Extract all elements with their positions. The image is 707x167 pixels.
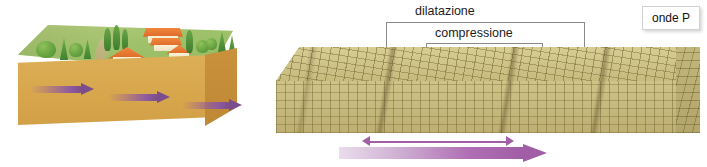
- onde-p-badge: onde P: [642, 6, 700, 30]
- arrow-shaft: [182, 102, 229, 109]
- motion-arrow-icon: [108, 91, 170, 104]
- compressione-bracket: [426, 43, 543, 44]
- compressione-label: compressione: [435, 26, 513, 40]
- arrow-head: [81, 83, 94, 95]
- arrow-shaft: [30, 86, 81, 93]
- grid-block-right-face: [676, 47, 700, 133]
- landscape-block-right-face: [205, 48, 237, 126]
- motion-arrow-icon: [182, 99, 242, 112]
- tree-icon: [186, 30, 193, 53]
- tree-icon: [36, 41, 56, 58]
- arrow-head: [229, 99, 242, 111]
- figure-root: dilatazione compressione onde P: [0, 0, 707, 167]
- arrow-head: [523, 144, 547, 162]
- arrow-shaft: [339, 147, 523, 159]
- arrow-shaft: [108, 94, 157, 101]
- motion-arrow-icon: [30, 83, 94, 96]
- grid-block-figure: dilatazione compressione onde P: [262, 0, 707, 167]
- dilatazione-label: dilatazione: [415, 4, 475, 18]
- landscape-block-figure: [0, 0, 265, 167]
- arrow-head: [157, 91, 170, 103]
- grid-block-front-face: [276, 81, 676, 133]
- arrow-shaft: [368, 141, 508, 143]
- tree-icon: [69, 43, 83, 57]
- tree-icon: [206, 38, 217, 50]
- grid-block-top-face: [276, 47, 700, 81]
- dilatazione-bracket: [386, 22, 585, 23]
- propagation-arrow-icon: [339, 144, 547, 163]
